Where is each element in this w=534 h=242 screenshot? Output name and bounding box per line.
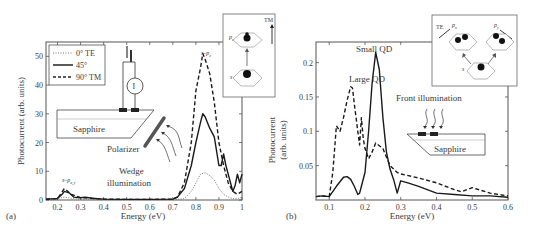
wedge-label-line2: illumination <box>107 178 151 188</box>
y-tick-label: 50 <box>35 52 43 61</box>
contact-pad <box>430 132 438 136</box>
sapphire-wedge-substrate <box>57 110 154 138</box>
y-tick-label: 0.2 <box>303 59 313 68</box>
legend-tm-label: 90° TM <box>76 73 101 82</box>
panel-a-y-label: Photocurrent (arb. units) <box>16 77 26 165</box>
front-setup-diagram: Sapphire <box>407 109 485 155</box>
small-qd-label: Small QD <box>356 44 393 54</box>
y-tick-label: 10 <box>35 167 43 176</box>
figure: 0.20.30.40.50.60.70.80.91 01020304050 0°… <box>0 0 534 242</box>
panel-b: 0.10.20.30.40.50.6 0.050.10.150.2 Large … <box>267 15 517 221</box>
panel-a-label: (a) <box>6 211 16 221</box>
y-tick-label: 40 <box>35 81 43 90</box>
panel-a: 0.20.30.40.50.60.70.80.91 01020304050 0°… <box>6 14 275 221</box>
contact-pad <box>131 108 139 112</box>
y-tick-label: 0.1 <box>303 127 313 136</box>
front-illumination-label: Front illumination <box>396 93 462 103</box>
y-tick-label: 0.15 <box>299 93 313 102</box>
x-tick-label: 0.1 <box>324 203 334 212</box>
x-tick-label: 1 <box>240 203 244 212</box>
y-tick-label: 0 <box>39 196 43 205</box>
contact-pad <box>119 108 127 112</box>
x-tick-label: 0.2 <box>360 203 370 212</box>
light-ray-icon <box>163 133 176 156</box>
light-ray-icon <box>433 109 435 126</box>
light-ray-icon <box>158 140 170 162</box>
polarizer-label: Polarizer <box>107 144 139 154</box>
inset-te-label: TE <box>436 24 444 30</box>
panel-a-inset-transition-diagram: pz s TM <box>223 14 275 97</box>
panel-b-inset-transition-diagram: TE px py s <box>432 15 517 86</box>
contact-pad <box>418 132 426 136</box>
panel-b-x-label: Energy (eV) <box>390 211 435 221</box>
x-tick-label: 0.9 <box>214 203 224 212</box>
y-tick-label: 30 <box>35 110 43 119</box>
x-tick-label: 0.4 <box>99 203 109 212</box>
x-tick-label: 0.5 <box>467 203 477 212</box>
legend-te-label: 0° TE <box>76 49 95 58</box>
x-tick-label: 0.3 <box>76 203 86 212</box>
ammeter-label: I <box>133 82 136 91</box>
annot-s-pz: s–pz <box>201 50 211 58</box>
light-ray-icon <box>425 109 427 126</box>
panel-b-label: (b) <box>286 211 297 221</box>
panel-a-x-label: Energy (eV) <box>121 211 166 221</box>
sapphire-label-b: Sapphire <box>434 144 466 154</box>
x-tick-label: 0.2 <box>53 203 63 212</box>
inset-tm-label: TM <box>264 17 274 23</box>
legend-45-label: 45° <box>76 61 87 70</box>
x-tick-label: 0.8 <box>191 203 201 212</box>
sapphire-label-a: Sapphire <box>73 124 105 134</box>
panel-b-y-label-line1: Photocurrent <box>267 116 277 163</box>
panel-a-legend: 0° TE 45° 90° TM <box>49 45 105 85</box>
y-tick-label: 20 <box>35 139 43 148</box>
wedge-label-line1: Wedge <box>119 166 144 176</box>
light-ray-icon <box>168 126 182 148</box>
panel-b-y-label-line2: (arb. units) <box>278 120 288 160</box>
x-tick-label: 0.6 <box>503 203 513 212</box>
large-qd-label: Large QD <box>349 74 386 84</box>
light-ray-icon <box>441 109 443 126</box>
y-tick-label: 0.05 <box>299 162 313 171</box>
annot-s-pxy: s–px,y <box>62 177 75 186</box>
x-tick-label: 0.7 <box>168 203 178 212</box>
